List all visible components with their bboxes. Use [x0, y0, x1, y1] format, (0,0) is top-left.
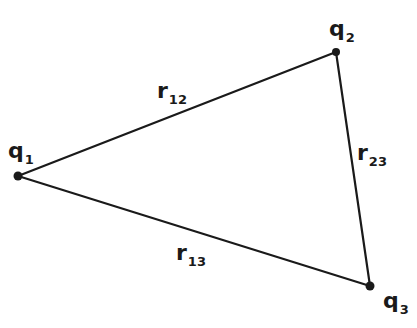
label-r13: r13 — [176, 242, 206, 264]
label-r12: r12 — [157, 80, 187, 102]
label-r23-symbol: r — [357, 140, 368, 165]
vertex-q1-point — [14, 172, 23, 181]
label-q1: q1 — [8, 140, 34, 162]
label-q3-subscript: 3 — [400, 302, 409, 317]
label-q1-subscript: 1 — [25, 152, 34, 167]
label-r13-subscript: 13 — [188, 254, 206, 269]
label-q2-subscript: 2 — [346, 30, 355, 45]
edge-r23 — [336, 52, 370, 286]
triangle-diagram — [0, 0, 417, 328]
vertex-q2-point — [332, 48, 340, 56]
label-q3-symbol: q — [383, 288, 399, 313]
vertex-q3-point — [366, 282, 375, 291]
label-q3: q3 — [383, 290, 409, 312]
label-q2: q2 — [329, 18, 355, 40]
label-q1-symbol: q — [8, 138, 24, 163]
label-q2-symbol: q — [329, 16, 345, 41]
edge-r12 — [18, 52, 336, 176]
edge-r13 — [18, 176, 370, 286]
label-r12-symbol: r — [157, 78, 168, 103]
label-r23: r23 — [357, 142, 387, 164]
label-r23-subscript: 23 — [369, 154, 387, 169]
label-r13-symbol: r — [176, 240, 187, 265]
label-r12-subscript: 12 — [169, 92, 187, 107]
